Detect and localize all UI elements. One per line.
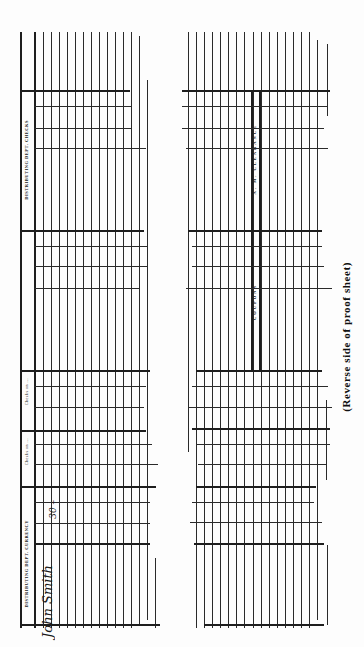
rule-line <box>34 444 152 445</box>
rule-line <box>147 80 148 620</box>
rule-line <box>34 386 146 387</box>
rule-line <box>228 32 229 628</box>
rule-line <box>131 32 132 628</box>
rule-line <box>34 266 148 267</box>
proof-sheet-reverse: DISTRIBUTING DEPT. CHECKS Checks on ... … <box>0 0 364 647</box>
section-divider <box>188 230 322 232</box>
rule-line <box>34 288 140 289</box>
section-divider <box>20 90 130 92</box>
rule-line <box>186 288 332 289</box>
section-divider <box>182 90 330 92</box>
rule-line <box>196 32 197 628</box>
rule-line <box>59 32 60 628</box>
section-divider <box>20 486 156 488</box>
rule-line <box>107 32 108 628</box>
rule-line <box>123 32 124 628</box>
section-divider <box>194 543 324 545</box>
header-distributing-dept-currency: DISTRIBUTING DEPT. CURRENCY <box>24 520 29 608</box>
label-am-clearance: A. M. CLEARANCE <box>252 124 257 195</box>
rule-line <box>326 400 327 480</box>
rule-line <box>196 444 330 445</box>
section-divider <box>192 428 330 430</box>
rule-line <box>192 246 322 247</box>
rule-line <box>34 246 148 247</box>
label-coupons: COUPONS <box>252 284 257 320</box>
rule-line <box>99 32 100 628</box>
rule-line <box>301 32 302 628</box>
rule-line <box>285 32 286 628</box>
rule-line <box>293 32 294 628</box>
bottom-border <box>204 624 324 626</box>
rule-line <box>188 407 332 408</box>
rule-line <box>269 32 270 628</box>
rule-line <box>236 32 237 628</box>
header-checks-on-1: Checks on ... <box>24 378 29 405</box>
rule-line <box>34 464 158 465</box>
rule-line <box>192 502 314 503</box>
rule-line <box>83 32 84 628</box>
handwritten-amount: 30 – <box>48 500 58 519</box>
rule-line <box>188 32 189 452</box>
rule-line <box>43 32 44 628</box>
rule-line <box>182 106 328 107</box>
rule-line <box>327 545 328 625</box>
rule-line <box>253 32 254 628</box>
rule-line <box>51 32 52 628</box>
rule-line <box>115 32 116 628</box>
rule-line <box>277 32 278 628</box>
section-divider <box>34 543 150 545</box>
rule-line <box>139 36 140 624</box>
rule-line <box>34 106 132 107</box>
rule-line <box>186 148 328 149</box>
rule-line <box>192 266 324 267</box>
section-divider <box>196 370 322 372</box>
section-divider <box>20 230 144 232</box>
rule-line <box>192 386 328 387</box>
rule-line <box>190 522 322 523</box>
rule-line <box>34 128 132 129</box>
header-distributing-dept-checks: DISTRIBUTING DEPT. CHECKS <box>24 120 29 200</box>
handwritten-signature: John Smith <box>40 565 55 638</box>
rule-line <box>212 32 213 628</box>
left-panel-header-line <box>34 32 36 628</box>
rule-line <box>204 32 205 628</box>
rule-line <box>244 32 245 628</box>
section-divider <box>196 486 316 488</box>
header-checks-on-2: Checks on ... <box>24 438 29 465</box>
rule-line <box>34 523 150 524</box>
section-divider <box>20 430 146 432</box>
rule-line <box>34 407 144 408</box>
rule-line <box>309 32 310 628</box>
section-divider <box>20 370 150 372</box>
rule-line <box>91 32 92 628</box>
rule-line <box>261 32 262 628</box>
rule-line <box>220 32 221 628</box>
rule-line <box>34 148 146 149</box>
rule-line <box>198 464 326 465</box>
rule-line <box>317 40 318 620</box>
left-panel-outer-line <box>20 32 22 628</box>
caption: (Reverse side of proof sheet) <box>340 262 352 412</box>
rule-line <box>155 558 156 628</box>
rule-line <box>75 32 76 628</box>
rule-line <box>67 32 68 628</box>
